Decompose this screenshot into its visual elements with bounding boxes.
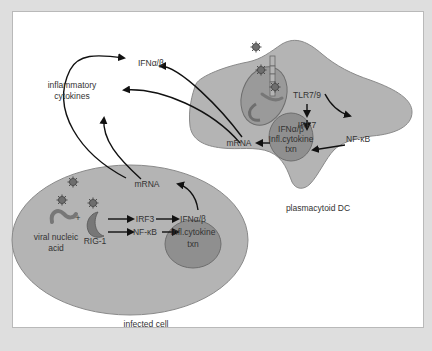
infected-nucleus-line2: Infl.cytokine xyxy=(171,227,216,237)
infected-nucleus-line3: txn xyxy=(187,239,199,249)
dc-mrna-label: mRNA xyxy=(226,138,251,148)
infected-mrna-label: mRNA xyxy=(134,179,159,189)
virus-icon xyxy=(68,177,79,188)
plus-sign: + xyxy=(76,213,81,223)
virus-icon xyxy=(270,82,281,93)
virus-icon xyxy=(57,195,68,206)
virus-icon xyxy=(251,42,262,53)
virus-icon xyxy=(88,198,99,209)
tlr-label: TLR7/9 xyxy=(293,90,321,100)
inflammatory-label-line2: cytokines xyxy=(54,91,89,101)
infected-cell-label: infected cell xyxy=(124,319,169,329)
immune-signaling-diagram: IFNα/β inflammatory cytokines TLR7/9 IRF… xyxy=(0,0,432,351)
dc-nucleus-line2: Infl.cytokine xyxy=(269,134,314,144)
viral-nucleic-acid-line1: viral nucleic xyxy=(34,232,79,242)
dc-nucleus-line1: IFNα/β xyxy=(278,124,304,134)
viral-nucleic-acid-line2: acid xyxy=(48,243,64,253)
virus-icon xyxy=(256,65,267,76)
dc-nfkb-label: NF-κB xyxy=(346,134,370,144)
infected-nucleus-line1: IFNα/β xyxy=(180,214,206,224)
irf3-label: IRF3 xyxy=(136,214,155,224)
rig1-label: RIG-1 xyxy=(84,236,107,246)
ifn-output-label: IFNα/β xyxy=(138,58,164,68)
inflammatory-label-line1: inflammatory xyxy=(48,80,97,90)
dc-nucleus-line3: txn xyxy=(285,144,297,154)
infected-nfkb-label: NF-κB xyxy=(133,227,157,237)
dc-cell-label: plasmacytoid DC xyxy=(286,203,350,213)
